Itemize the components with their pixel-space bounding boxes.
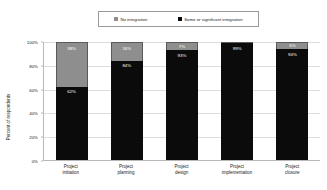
bar-slot-project-implementation: 99% [210,42,265,160]
x-axis-label-line2: initiation [44,170,97,176]
bar-stack-project-design[interactable]: 7% 93% [166,42,198,160]
y-tick-label-40: 40% [29,111,38,116]
x-axis-label-project-design: Project design [154,164,209,188]
bar-segment-no-integration[interactable]: 16% [111,42,143,61]
y-axis-title: Percent of respondents [6,75,12,159]
legend-swatch-black-icon [178,17,182,21]
x-axis-label-line2: closure [266,170,319,176]
bar-segment-some-integration[interactable]: 84% [111,61,143,160]
y-tick-label-80: 80% [29,63,38,68]
stacked-bar-chart: No integration Some or significant integ… [0,0,327,190]
y-tick-label-20: 20% [29,135,38,140]
bar-series: 38% 62% 16% 84% [44,42,320,160]
bar-value-label-no-integration: 38% [67,46,76,51]
legend-label-some-integration: Some or significant integration [184,17,242,22]
bar-stack-project-planning[interactable]: 16% 84% [111,42,143,160]
bar-slot-project-planning: 16% 84% [99,42,154,160]
y-axis: Percent of respondents 100% 80% 60% 40% … [0,42,41,161]
bar-value-label-some-integration: 94% [288,52,297,57]
y-tick-label-60: 60% [29,87,38,92]
x-axis-label-line2: design [155,170,208,176]
legend-swatch-gray-icon [114,17,118,21]
bar-segment-no-integration[interactable]: 38% [56,42,88,87]
bar-value-label-no-integration: 6% [289,43,295,48]
bar-segment-no-integration[interactable]: 6% [276,42,308,49]
bar-slot-project-closure: 6% 94% [265,42,320,160]
x-axis-label-line2: implementation [210,170,263,176]
bar-segment-no-integration[interactable]: 7% [166,42,198,50]
y-tick-label-100: 100% [27,40,38,45]
bar-value-label-some-integration: 62% [67,89,76,94]
bar-segment-some-integration[interactable]: 93% [166,50,198,160]
legend-item-some-integration: Some or significant integration [178,17,242,22]
bar-value-label-no-integration: 16% [122,46,131,51]
legend-label-no-integration: No integration [120,17,147,22]
bar-value-label-some-integration: 99% [233,46,242,51]
y-tick-label-0: 0% [32,159,38,164]
legend-item-no-integration: No integration [114,17,147,22]
bar-slot-project-initiation: 38% 62% [44,42,99,160]
bar-value-label-some-integration: 93% [178,53,187,58]
plot-area: 38% 62% 16% 84% [43,42,320,161]
bar-segment-some-integration[interactable]: 62% [56,87,88,160]
bar-segment-some-integration[interactable]: 99% [221,43,253,160]
bar-stack-project-implementation[interactable]: 99% [221,42,253,160]
x-axis-label-project-implementation: Project implementation [209,164,264,188]
x-axis-label-line2: planning [99,170,152,176]
x-axis-label-project-closure: Project closure [265,164,320,188]
bar-value-label-no-integration: 7% [179,44,185,49]
x-axis: Project initiation Project planning Proj… [43,164,320,188]
bar-value-label-some-integration: 84% [122,63,131,68]
bar-segment-some-integration[interactable]: 94% [276,49,308,160]
bar-stack-project-initiation[interactable]: 38% 62% [56,42,88,160]
bar-stack-project-closure[interactable]: 6% 94% [276,42,308,160]
x-axis-label-project-planning: Project planning [98,164,153,188]
chart-legend: No integration Some or significant integ… [98,11,259,27]
x-axis-label-project-initiation: Project initiation [43,164,98,188]
bar-slot-project-design: 7% 93% [154,42,209,160]
